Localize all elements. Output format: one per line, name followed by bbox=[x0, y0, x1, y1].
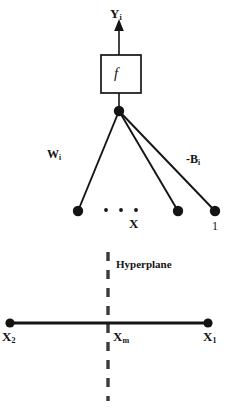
bias-input-label: 1 bbox=[212, 220, 218, 232]
axis-endpoint-right bbox=[203, 318, 212, 327]
input-node-last bbox=[173, 206, 183, 216]
weight-label: Wi bbox=[47, 148, 61, 160]
axis-label-left: X2 bbox=[2, 330, 15, 343]
ellipsis-dot bbox=[134, 208, 138, 212]
diagram-svg bbox=[0, 0, 236, 415]
edge-weight-first bbox=[78, 111, 119, 211]
axis-label-middle: Xm bbox=[113, 330, 129, 343]
activation-function-label: f bbox=[114, 66, 118, 81]
ellipsis-dot bbox=[119, 208, 123, 212]
bias-label: -Bi bbox=[186, 153, 200, 165]
activation-function-box bbox=[101, 55, 141, 93]
axis-endpoint-left bbox=[5, 318, 14, 327]
edge-bias bbox=[119, 111, 215, 211]
input-node-bias bbox=[210, 206, 220, 216]
hyperplane-label: Hyperplane bbox=[116, 259, 172, 270]
axis-label-right: X1 bbox=[203, 330, 216, 343]
ellipsis-dot bbox=[104, 208, 108, 212]
edge-weight-last bbox=[119, 111, 178, 211]
input-group-label: X bbox=[129, 217, 138, 230]
diagram-canvas: Yi f Wi -Bi X 1 Hyperplane X2 Xm X1 bbox=[0, 0, 236, 415]
summation-node bbox=[114, 106, 124, 116]
input-node-first bbox=[73, 206, 83, 216]
output-label: Yi bbox=[110, 7, 122, 20]
